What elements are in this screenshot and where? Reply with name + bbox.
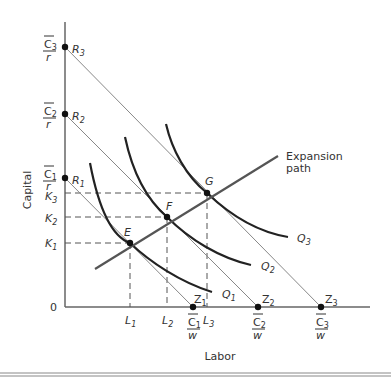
x-axis-title: Labor bbox=[204, 350, 236, 363]
x-fraction-c2: C2 w bbox=[252, 314, 266, 342]
origin-label: 0 bbox=[50, 301, 57, 314]
label-l2: L2 bbox=[162, 314, 173, 329]
label-r2: R2 bbox=[72, 110, 85, 125]
label-q2: Q2 bbox=[261, 260, 275, 275]
expansion-path-label-line2: path bbox=[286, 162, 311, 175]
svg-text:r: r bbox=[46, 118, 52, 131]
svg-text:w: w bbox=[253, 329, 262, 342]
svg-text:C3: C3 bbox=[316, 316, 329, 330]
x-fraction-c1: C1 w bbox=[187, 314, 201, 342]
isoquant-q2 bbox=[125, 137, 251, 265]
x-fraction-c3: C3 w bbox=[315, 314, 329, 342]
y-fraction-c1: C1 r bbox=[43, 166, 57, 193]
isoquant-q3 bbox=[166, 124, 288, 237]
y-axis-title: Capital bbox=[21, 171, 34, 210]
svg-text:C1: C1 bbox=[188, 316, 201, 330]
svg-text:w: w bbox=[188, 329, 197, 342]
label-l1: L1 bbox=[125, 314, 136, 329]
isocost-lines bbox=[65, 47, 321, 307]
label-point-f: F bbox=[166, 200, 173, 213]
y-fraction-c3: C3 r bbox=[43, 36, 57, 64]
label-z3: Z3 bbox=[325, 293, 338, 308]
svg-text:r: r bbox=[46, 51, 52, 64]
point-f bbox=[164, 214, 170, 220]
tangency-points bbox=[127, 190, 210, 246]
label-q3: Q3 bbox=[297, 232, 311, 247]
label-r1: R1 bbox=[72, 174, 85, 189]
point-g bbox=[204, 190, 210, 196]
svg-text:C2: C2 bbox=[44, 105, 57, 119]
label-r3: R3 bbox=[72, 43, 85, 58]
svg-text:w: w bbox=[316, 329, 325, 342]
y-fraction-c2: C2 r bbox=[43, 103, 57, 131]
point-e bbox=[127, 240, 133, 246]
label-k3: K3 bbox=[45, 190, 57, 205]
isocost-line-3 bbox=[65, 47, 321, 307]
expansion-path-line bbox=[95, 156, 278, 269]
isoquant-q1 bbox=[90, 163, 212, 292]
isoquants bbox=[90, 124, 288, 292]
label-k2: K2 bbox=[45, 212, 57, 227]
label-q1: Q1 bbox=[222, 288, 236, 303]
svg-text:C3: C3 bbox=[44, 38, 57, 52]
label-k1: K1 bbox=[45, 237, 57, 252]
label-point-e: E bbox=[124, 226, 131, 239]
svg-text:C2: C2 bbox=[253, 316, 266, 330]
label-l3: L3 bbox=[203, 314, 214, 329]
label-z2: Z2 bbox=[262, 293, 275, 308]
label-z1: Z1 bbox=[194, 293, 207, 308]
label-point-g: G bbox=[205, 175, 214, 188]
cost-minimization-diagram: R3 R2 R1 C3 r C2 r C1 r K3 K2 K1 0 Capit… bbox=[0, 0, 391, 381]
